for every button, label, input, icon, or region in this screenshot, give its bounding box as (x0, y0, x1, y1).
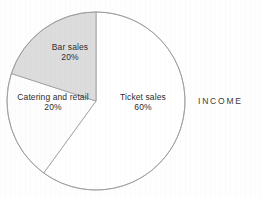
pie-label-catering-and-retail: Catering and retail 20% (12, 92, 94, 112)
pie-label-ticket-sales-value: 60% (106, 102, 180, 112)
pie-label-ticket-sales-name: Ticket sales (106, 92, 180, 102)
chart-page: Ticket sales 60% Bar sales 20% Catering … (0, 0, 261, 198)
pie-label-catering-and-retail-name: Catering and retail (12, 92, 94, 102)
pie-label-ticket-sales: Ticket sales 60% (106, 92, 180, 112)
pie-label-bar-sales-name: Bar sales (34, 42, 106, 52)
pie-label-bar-sales-value: 20% (34, 52, 106, 62)
chart-caption-income: INCOME (198, 96, 243, 106)
pie-label-bar-sales: Bar sales 20% (34, 42, 106, 62)
pie-label-catering-and-retail-value: 20% (12, 102, 94, 112)
